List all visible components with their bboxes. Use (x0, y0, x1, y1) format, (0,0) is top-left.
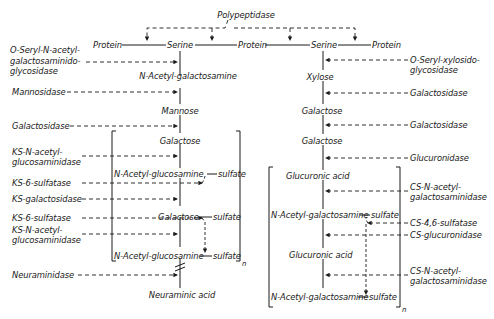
backbone-serine-1: Serine (167, 40, 193, 50)
right-sugar-galnac-1: N-Acetyl-galactosamine (271, 210, 369, 220)
enzyme-o-seryl-galnac-1: O-Seryl-N-acetyl- (10, 45, 80, 55)
left-sugar-glcnac-1: N-Acetyl-glucosamine (114, 169, 203, 179)
enzyme-o-seryl-xylosido-2: glycosidase (410, 65, 458, 75)
right-sugar-glca-2: Glucuronic acid (289, 250, 352, 260)
enzyme-o-seryl-galnac-3: glycosidase (10, 66, 58, 76)
enzyme-o-seryl-galnac-2: galactosaminido- (10, 56, 80, 66)
enzyme-cs-n-acetyl-2a: CS-N-acetyl- (410, 266, 461, 276)
proteoglycan-degradation-diagram: Polypeptidase Protein Serine Protein Ser… (0, 0, 494, 319)
right-sulfate-2: sulfate (369, 292, 397, 302)
right-sugar-galactose-1: Galactose (302, 106, 343, 116)
right-sugar-glca-1: Glucuronic acid (286, 171, 349, 181)
backbone-protein-2: Protein (238, 40, 267, 50)
left-sugar-neuraminic-acid: Neuraminic acid (149, 290, 216, 300)
left-sugar-galactose-1: Galactose (160, 136, 201, 146)
right-sulfate-1: sulfate (371, 210, 399, 220)
left-sulfate-1: sulfate (218, 169, 246, 179)
enzyme-cs-n-acetyl-1a: CS-N-acetyl- (410, 182, 461, 192)
enzyme-ks-galactosidase: KS-galactosidase (12, 194, 82, 204)
enzyme-ks-n-acetyl-1b: glucosaminidase (12, 157, 81, 167)
enzyme-galactosidase-right-2: Galactosidase (410, 120, 467, 130)
enzyme-ks-6-sulfatase-2: KS-6-sulfatase (12, 213, 71, 223)
left-sugar-glcnac-2: N-Acetyl-glucosamine (114, 251, 203, 261)
right-sugar-xylose: Xylose (306, 72, 333, 82)
enzyme-o-seryl-xylosido-1: O-Seryl-xylosido- (410, 55, 480, 65)
enzyme-cs-glucuronidase: CS-glucuronidase (410, 230, 482, 240)
left-sulfate-2: sulfate (213, 212, 241, 222)
left-sugar-mannose: Mannose (162, 106, 199, 116)
enzyme-mannosidase: Mannosidase (12, 87, 66, 97)
enzyme-neuraminidase: Neuraminidase (12, 270, 74, 280)
enzyme-galactosidase-left: Galactosidase (12, 121, 69, 131)
left-sugar-galactose-2: Galactose (158, 212, 199, 222)
enzyme-ks-n-acetyl-2a: KS-N-acetyl- (12, 225, 62, 235)
backbone-serine-2: Serine (311, 40, 337, 50)
enzyme-galactosidase-right-1: Galactosidase (410, 88, 467, 98)
left-repeat-n: n (242, 259, 246, 269)
backbone-protein-3: Protein (372, 40, 401, 50)
enzyme-cs-4-6-sulfatase: CS-4,6-sulfatase (410, 218, 477, 228)
enzyme-ks-n-acetyl-2b: glucosaminidase (12, 235, 81, 245)
polypeptidase-label: Polypeptidase (217, 10, 275, 20)
right-sugar-galnac-2: N-Acetyl-galactosamine (271, 292, 369, 302)
enzyme-ks-n-acetyl-1a: KS-N-acetyl- (12, 147, 62, 157)
right-sugar-galactose-2: Galactose (302, 136, 343, 146)
enzyme-glucuronidase: Glucuronidase (410, 153, 469, 163)
left-sulfate-3: sulfate (213, 251, 241, 261)
right-repeat-n: n (402, 305, 406, 315)
left-sugar-galnac: N-Acetyl-galactosamine (139, 71, 237, 81)
backbone-protein-1: Protein (93, 40, 122, 50)
enzyme-cs-n-acetyl-2b: galactosaminidase (410, 276, 487, 286)
enzyme-cs-n-acetyl-1b: galactosaminidase (410, 192, 487, 202)
enzyme-ks-6-sulfatase-1: KS-6-sulfatase (12, 178, 71, 188)
